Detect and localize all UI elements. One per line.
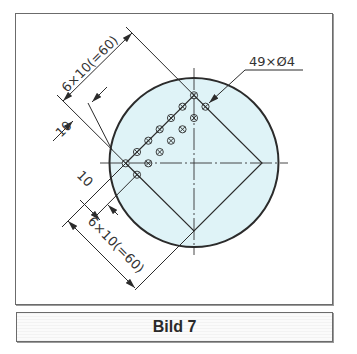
- dim-top-label: 6×10(=60): [59, 33, 121, 95]
- technical-drawing: 49×Ø4 6×10(=60) 10 10 6×10(=60): [0, 0, 357, 354]
- hole-callout-label: 49×Ø4: [249, 54, 295, 69]
- figure-caption-box: Bild 7: [16, 312, 333, 342]
- dim-pitch-upper-label: 10: [53, 118, 75, 140]
- figure-caption: Bild 7: [153, 318, 197, 336]
- dim-pitch-lower-label: 10: [74, 168, 96, 190]
